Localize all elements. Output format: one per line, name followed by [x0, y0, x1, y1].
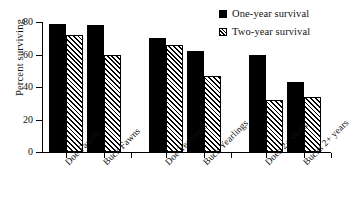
- bar-doe-fawns-two-year: [66, 35, 83, 152]
- x-group-separator-tick: [331, 153, 332, 158]
- x-axis-line: [42, 152, 331, 153]
- bar-doe-yearlings-one-year: [149, 38, 166, 152]
- y-tick-label-wrap: 20: [0, 120, 42, 121]
- y-tick-label: 60: [23, 49, 33, 60]
- x-group-separator-tick: [131, 153, 132, 158]
- bar-buck-fawns-two-year: [104, 55, 121, 153]
- y-tick-label: 80: [23, 16, 33, 27]
- y-tick-label: 0: [28, 146, 33, 157]
- y-tick-label-wrap: 40: [0, 87, 42, 88]
- bar-doe-fawns-one-year: [49, 24, 66, 152]
- solid-square-icon: [219, 10, 227, 18]
- bar-does-2-years-one-year: [249, 55, 266, 153]
- bar-doe-yearlings-two-year: [166, 45, 183, 152]
- bar-buck-yearlings-two-year: [204, 76, 221, 152]
- legend-item-one-year: One-year survival: [219, 6, 331, 21]
- legend-label-one-year: One-year survival: [232, 8, 309, 19]
- plot-area: [43, 22, 331, 152]
- y-tick-label: 40: [23, 81, 33, 92]
- x-group-separator-tick: [231, 153, 232, 158]
- y-tick-label-wrap: 60: [0, 55, 42, 56]
- y-tick-label-wrap: 80: [0, 22, 42, 23]
- y-tick-label: 20: [23, 114, 33, 125]
- y-tick-label-wrap: 0: [0, 152, 42, 153]
